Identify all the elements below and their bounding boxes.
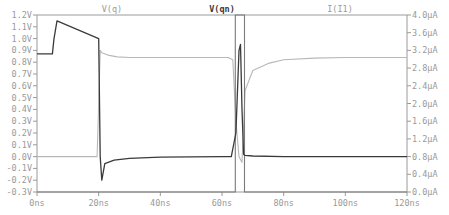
trace-lines xyxy=(37,15,407,192)
left-axis-tick-label: 0.7V xyxy=(12,69,32,79)
left-axis-tick-label: 0.5V xyxy=(12,93,32,103)
legend-ii1[interactable]: I(I1) xyxy=(327,4,353,14)
left-axis-tick-label: 1.0V xyxy=(12,34,32,44)
left-axis-tick-label: 0.2V xyxy=(12,128,32,138)
trace-ii1 xyxy=(37,15,407,192)
x-axis-tick-label: 80ns xyxy=(273,198,293,208)
left-axis-tick-label: 0.4V xyxy=(12,104,32,114)
x-axis-tick-label: 20ns xyxy=(88,198,108,208)
right-axis-tick-label: 0.4µA xyxy=(412,169,438,179)
left-axis-tick-label: -0.1V xyxy=(6,163,32,173)
x-axis-tick-label: 60ns xyxy=(212,198,232,208)
x-axis-tick-label: 100ns xyxy=(333,198,359,208)
right-axis-tick-label: 4.0µA xyxy=(412,10,438,20)
right-axis-tick-label: 0.0µA xyxy=(412,187,438,197)
right-axis-tick-label: 0.8µA xyxy=(412,152,438,162)
left-axis-tick-label: 0.1V xyxy=(12,140,32,150)
left-axis-tick-label: 0.9V xyxy=(12,45,32,55)
left-axis-tick-label: 1.1V xyxy=(12,22,32,32)
right-axis-tick-label: 1.2µA xyxy=(412,134,438,144)
x-axis-tick-label: 40ns xyxy=(150,198,170,208)
left-axis-tick-label: 1.2V xyxy=(12,10,32,20)
right-axis-tick-label: 1.6µA xyxy=(412,116,438,126)
x-axis-tick-label: 0ns xyxy=(29,198,44,208)
left-axis-tick-label: 0.8V xyxy=(12,57,32,67)
waveform-plot: 1.2V1.1V1.0V0.9V0.8V0.7V0.6V0.5V0.4V0.3V… xyxy=(0,0,449,215)
x-axis-tick-label: 120ns xyxy=(394,198,420,208)
plot-frame xyxy=(37,15,407,192)
x-axis: 0ns20ns40ns60ns80ns100ns120ns xyxy=(29,192,419,208)
left-axis-tick-label: 0.0V xyxy=(12,152,32,162)
legend-vq[interactable]: V(q) xyxy=(102,4,122,14)
right-axis-tick-label: 2.4µA xyxy=(412,81,438,91)
trace-legend[interactable]: V(q)V(qn)I(I1) xyxy=(102,4,353,14)
left-y-axis: 1.2V1.1V1.0V0.9V0.8V0.7V0.6V0.5V0.4V0.3V… xyxy=(6,10,37,197)
right-axis-tick-label: 3.6µA xyxy=(412,28,438,38)
right-axis-tick-label: 3.2µA xyxy=(412,45,438,55)
legend-vqn[interactable]: V(qn) xyxy=(209,4,235,14)
left-axis-tick-label: -0.3V xyxy=(6,187,32,197)
right-axis-tick-label: 2.8µA xyxy=(412,63,438,73)
left-axis-tick-label: -0.2V xyxy=(6,175,32,185)
right-axis-tick-label: 2.0µA xyxy=(412,99,438,109)
right-y-axis: 4.0µA3.6µA3.2µA2.8µA2.4µA2.0µA1.6µA1.2µA… xyxy=(407,10,438,197)
left-axis-tick-label: 0.3V xyxy=(12,116,32,126)
trace-vq xyxy=(37,50,407,162)
left-axis-tick-label: 0.6V xyxy=(12,81,32,91)
